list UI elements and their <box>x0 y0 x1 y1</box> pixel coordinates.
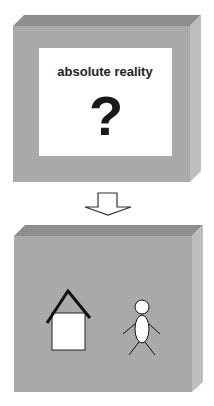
top-box-top-face <box>13 15 201 26</box>
reality-diagram: absolute reality ? <box>0 0 214 406</box>
down-arrow-icon <box>85 193 131 215</box>
question-mark-icon: ? <box>89 84 123 147</box>
bottom-box <box>14 225 203 392</box>
top-box-label: absolute reality <box>57 64 153 79</box>
bottom-box-top-face <box>14 225 203 236</box>
bottom-box-front-face <box>14 236 192 392</box>
top-box: absolute reality ? <box>13 15 201 182</box>
bottom-box-side-face <box>192 225 203 392</box>
top-box-side-face <box>190 15 201 182</box>
